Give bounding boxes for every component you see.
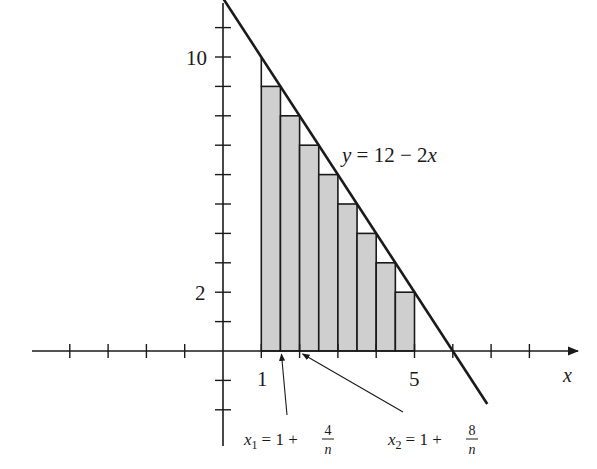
annotation-numerator-x2: 8 (469, 423, 476, 438)
riemann-rectangle (261, 86, 280, 351)
riemann-rectangle (280, 116, 299, 351)
riemann-rectangle (319, 175, 338, 351)
function-label-part: x (427, 143, 438, 167)
riemann-rectangle (357, 233, 376, 351)
riemann-sum-figure: y = 12 − 2x x 10 2 1 5 x1= 1 +4nx2= 1 +8… (0, 0, 597, 469)
x-axis-label: x (562, 364, 572, 386)
point-annotations: x1= 1 +4nx2= 1 +8n (243, 354, 478, 457)
y-tick-label-10: 10 (186, 46, 207, 70)
annotation-denominator-x2: n (469, 442, 476, 457)
y-tick-label-2: 2 (195, 281, 206, 305)
function-label-part: y (340, 143, 352, 167)
annotation-denominator-x1: n (325, 442, 332, 457)
x-tick-label-5: 5 (409, 367, 420, 391)
x-tick-label-1: 1 (257, 367, 268, 391)
annotation-label-x2: x2= 1 + (387, 430, 442, 452)
annotation-arrow-x1 (281, 354, 287, 415)
riemann-rectangle (395, 292, 414, 351)
riemann-rectangle (338, 204, 357, 351)
riemann-rectangle (300, 145, 319, 351)
function-label: y = 12 − 2x (340, 143, 438, 167)
function-label-part: = 12 − 2 (351, 143, 427, 167)
annotation-arrow-x2 (303, 354, 403, 412)
annotation-label-x1: x1= 1 + (243, 430, 298, 452)
riemann-rectangle (376, 263, 395, 351)
riemann-rectangles (261, 57, 414, 351)
annotation-numerator-x1: 4 (325, 423, 332, 438)
